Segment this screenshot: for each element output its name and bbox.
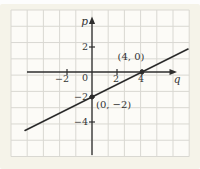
- coordinate-plane: p q 0 −2 2 4 2 −2 −4 (4, 0) (0, −2): [0, 0, 200, 169]
- point-dot: [90, 95, 95, 100]
- x-axis-label: q: [174, 73, 181, 85]
- origin-label: 0: [82, 72, 88, 83]
- y-tick-label-2: 2: [82, 41, 88, 52]
- x-tick-label-neg2: −2: [55, 73, 69, 84]
- graph-figure: p q 0 −2 2 4 2 −2 −4 (4, 0) (0, −2): [0, 0, 200, 169]
- x-tick-label-2: 2: [113, 73, 119, 84]
- y-axis-label: p: [81, 15, 88, 27]
- point-label-0-neg2: (0, −2): [96, 99, 131, 110]
- x-tick-label-4: 4: [138, 73, 144, 84]
- y-tick-label-neg2: −2: [74, 91, 88, 102]
- point-label-4-0: (4, 0): [118, 51, 145, 62]
- y-tick-label-neg4: −4: [74, 116, 88, 127]
- plot-area: [11, 10, 189, 157]
